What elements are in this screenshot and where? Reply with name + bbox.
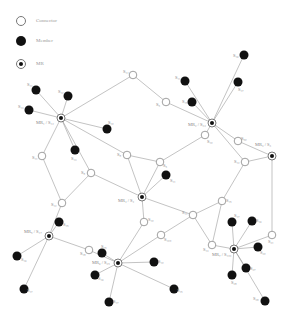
member-node: [228, 218, 237, 227]
member-node-icon: [71, 146, 80, 155]
edge: [161, 215, 193, 235]
node-label: S₁₀: [148, 217, 154, 222]
mr-node: [138, 193, 146, 201]
node-label: S₁₇: [238, 87, 244, 92]
node-label: S₂₀: [260, 250, 266, 255]
node-label: S₂₈: [231, 280, 237, 285]
connector-node-icon: [268, 231, 276, 239]
node-label: MR₂ / S₂₃: [188, 122, 206, 127]
connector-node: [140, 218, 148, 226]
member-node-icon: [188, 98, 197, 107]
edge: [212, 201, 222, 245]
legend-label-connector: Connector: [36, 18, 57, 23]
edge: [234, 235, 272, 249]
legend-item-mr: MR: [16, 56, 57, 71]
edge: [61, 118, 75, 150]
node-label: S₁₀: [158, 259, 164, 264]
node-label: S₁₂: [58, 89, 64, 94]
connector-node: [218, 197, 226, 205]
connector-node-icon: [140, 218, 148, 226]
node-label: MR₇ / S₁₀₃: [212, 252, 232, 257]
connector-node-icon: [123, 151, 131, 159]
node-label: S₂₉: [253, 296, 259, 301]
node-layer: [13, 51, 277, 307]
connector-node-icon: [38, 152, 46, 160]
node-label: MR₄ / S₄: [118, 198, 135, 203]
edge: [118, 262, 154, 263]
mr-node: [208, 119, 216, 127]
member-node: [261, 297, 270, 306]
node-label: S₈: [117, 152, 122, 157]
node-label: MR₁ / S₁₂: [36, 120, 54, 125]
node-label: S₁₇: [27, 288, 33, 293]
edge: [118, 222, 144, 263]
node-label: S₁₂: [51, 202, 57, 207]
connector-node: [129, 71, 137, 79]
member-node-icon: [261, 297, 270, 306]
node-label: S₁₁: [170, 178, 176, 183]
node-label: S₁₆: [98, 276, 104, 281]
node-label: S₈: [81, 170, 86, 175]
connector-node: [268, 231, 276, 239]
node-label: S₁₁: [32, 155, 38, 160]
connector-node-icon: [201, 131, 209, 139]
legend-label-mr: MR: [36, 61, 44, 66]
edge: [133, 75, 166, 102]
node-label: S₅: [156, 102, 161, 107]
node-label: S₁₃: [203, 247, 209, 252]
edge: [127, 155, 160, 162]
node-label: S₂₁: [268, 239, 274, 244]
member-node: [240, 51, 249, 60]
connector-node-icon: [162, 98, 170, 106]
legend: Connector Member MR: [16, 13, 57, 71]
member-node-icon: [98, 249, 107, 258]
mr-node: [45, 232, 53, 240]
node-label: S₁₁: [182, 210, 188, 215]
member-node-icon: [64, 92, 73, 101]
edge: [49, 236, 89, 250]
node-label: S₁₀: [108, 120, 114, 125]
member-node-icon: [16, 36, 26, 46]
edge: [91, 173, 142, 197]
edge: [212, 82, 238, 123]
node-label: S₁₅: [226, 198, 232, 203]
member-node-icon: [240, 51, 249, 60]
node-label: S₁₄: [123, 69, 129, 74]
label-layer: MR₁ / S₁₂MR₂ / S₂₃MR₃ / S₃MR₄ / S₄MR₅ / …: [18, 53, 274, 304]
legend-label-member: Member: [36, 38, 53, 43]
mr-node-icon: [16, 59, 26, 69]
member-node: [32, 86, 41, 95]
connector-node-icon: [241, 158, 249, 166]
node-label: MR₅ / S₁₇: [24, 229, 42, 234]
edge: [160, 135, 205, 162]
legend-item-member: Member: [16, 33, 57, 48]
member-node: [98, 249, 107, 258]
member-node: [181, 77, 190, 86]
legend-item-connector: Connector: [16, 13, 57, 28]
member-node-icon: [25, 106, 34, 115]
edge: [61, 118, 107, 129]
edge: [142, 175, 166, 197]
connector-node: [208, 241, 216, 249]
edge: [36, 90, 61, 118]
connector-node: [123, 151, 131, 159]
node-label: S₁₀₀: [164, 237, 172, 242]
node-label: S₁₅: [182, 99, 188, 104]
node-label: S₁₁: [175, 75, 181, 80]
node-label: MR₆ / S₂₅: [92, 260, 110, 265]
member-node-icon: [32, 86, 41, 95]
node-label: S₁₇: [113, 299, 119, 304]
node-label: S₁₅: [63, 222, 69, 227]
edge: [193, 201, 222, 215]
member-node: [71, 146, 80, 155]
node-label: S₁₂: [234, 159, 240, 164]
edge: [62, 173, 91, 203]
member-node-icon: [228, 218, 237, 227]
node-label: S₅₀: [241, 136, 247, 141]
connector-node: [162, 98, 170, 106]
node-label: S₁₆: [256, 218, 262, 223]
mr-node: [57, 114, 65, 122]
node-label: S₁₆: [233, 53, 239, 58]
node-label: S₁₅: [177, 288, 183, 293]
member-node-icon: [228, 271, 237, 280]
